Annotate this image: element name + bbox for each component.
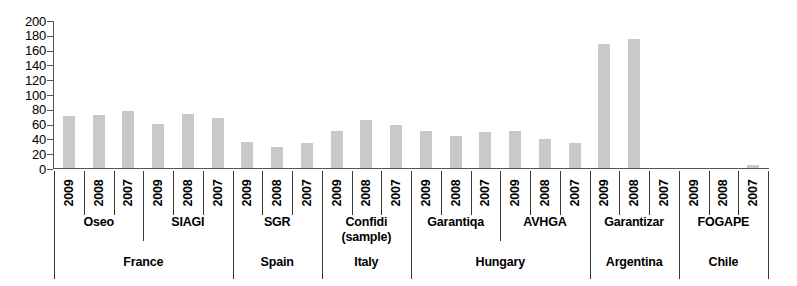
- axis-institution-label: SGR: [233, 215, 322, 230]
- bar: [212, 118, 224, 169]
- axis-separator-country: [679, 171, 680, 279]
- bar: [152, 124, 164, 169]
- axis-year-cell: 2009: [500, 172, 530, 214]
- axis-year-cell: 2009: [322, 172, 352, 214]
- axis-year-label: 2007: [389, 176, 403, 210]
- axis-separator-year: [352, 171, 353, 215]
- axis-separator-country: [233, 171, 234, 279]
- axis-year-label: 2009: [240, 176, 254, 210]
- axis-separator-country: [411, 171, 412, 279]
- axis-separator-year: [203, 171, 204, 215]
- axis-year-label: 2007: [300, 176, 314, 210]
- bar: [331, 131, 343, 169]
- axis-year-label: 2009: [62, 176, 76, 210]
- axis-separator-year: [649, 171, 650, 215]
- axis-year-cell: 2007: [560, 172, 590, 214]
- axis-separator-institution: [500, 171, 501, 241]
- axis-institution-label: Garantiqa: [411, 215, 500, 230]
- axis-year-cell: 2009: [54, 172, 84, 214]
- axis-institution-cell: FOGAPE: [679, 215, 768, 253]
- y-axis-tick-label: 40: [0, 133, 46, 146]
- axis-separator-country: [590, 171, 591, 279]
- axis-year-label: 2008: [538, 176, 552, 210]
- axis-year-cell: 2008: [530, 172, 560, 214]
- axis-year-label: 2007: [746, 176, 760, 210]
- axis-institution-label: AVHGA: [500, 215, 589, 230]
- bar: [628, 39, 640, 169]
- axis-year-cell: 2007: [738, 172, 768, 214]
- bar: [93, 115, 105, 169]
- axis-year-cell: 2008: [352, 172, 382, 214]
- axis-year-label: 2008: [449, 176, 463, 210]
- axis-year-cell: 2008: [84, 172, 114, 214]
- axis-separator-year: [173, 171, 174, 215]
- axis-year-label: 2007: [211, 176, 225, 210]
- axis-separator-country: [768, 171, 769, 279]
- bar: [569, 143, 581, 169]
- bar: [479, 132, 491, 169]
- axis-year-cell: 2008: [619, 172, 649, 214]
- axis-year-cell: 2009: [411, 172, 441, 214]
- bar: [182, 114, 194, 169]
- bar: [509, 131, 521, 169]
- axis-institution-label-line2: (sample): [322, 230, 411, 245]
- axis-separator-country: [54, 171, 55, 279]
- axis-country-label: Spain: [261, 255, 294, 269]
- bar: [63, 116, 75, 169]
- axis-institution-cell: Garantizar: [590, 215, 679, 253]
- bar: [271, 147, 283, 169]
- plot-area: [54, 21, 768, 169]
- axis-year-label: 2008: [270, 176, 284, 210]
- axis-separator-year: [560, 171, 561, 215]
- bar: [420, 131, 432, 169]
- axis-separator-country: [322, 171, 323, 279]
- axis-separator-year: [84, 171, 85, 215]
- axis-separator-year: [471, 171, 472, 215]
- y-axis-tick-label: 160: [0, 44, 46, 57]
- axis-year-label: 2007: [657, 176, 671, 210]
- axis-institution-cell: SGR: [233, 215, 322, 253]
- axis-year-cell: 2007: [203, 172, 233, 214]
- axis-country-cell: Argentina: [590, 255, 679, 277]
- bar: [539, 139, 551, 169]
- axis-year-cell: 2007: [471, 172, 501, 214]
- axis-separator-year: [530, 171, 531, 215]
- bar: [360, 120, 372, 169]
- y-axis-tick-label: 100: [0, 89, 46, 102]
- axis-year-cell: 2009: [590, 172, 620, 214]
- axis-country-label: Chile: [709, 255, 739, 269]
- axis-institution-cell: Confidi(sample): [322, 215, 411, 253]
- axis-separator-institution: [143, 171, 144, 241]
- axis-country-cell: Spain: [233, 255, 322, 277]
- axis-year-label: 2007: [478, 176, 492, 210]
- y-axis-tick-label: 200: [0, 15, 46, 28]
- axis-country-label: Argentina: [606, 255, 663, 269]
- axis-institution-label: SIAGI: [143, 215, 232, 230]
- axis-year-cell: 2009: [143, 172, 173, 214]
- axis-year-label: 2009: [597, 176, 611, 210]
- bar: [390, 125, 402, 169]
- y-axis-tick-label: 180: [0, 29, 46, 42]
- axis-institution-label: Garantizar: [590, 215, 679, 230]
- axis-year-label: 2007: [121, 176, 135, 210]
- axis-year-cell: 2008: [441, 172, 471, 214]
- axis-separator-year: [262, 171, 263, 215]
- axis-year-cell: 2007: [649, 172, 679, 214]
- axis-year-cell: 2008: [262, 172, 292, 214]
- axis-year-cell: 2008: [173, 172, 203, 214]
- axis-separator-year: [709, 171, 710, 215]
- axis-year-cell: 2009: [679, 172, 709, 214]
- axis-year-cell: 2007: [292, 172, 322, 214]
- axis-country-label: Hungary: [476, 255, 525, 269]
- axis-institution-cell: SIAGI: [143, 215, 232, 253]
- bar: [122, 111, 134, 169]
- axis-country-label: France: [123, 255, 163, 269]
- axis-year-label: 2009: [508, 176, 522, 210]
- axis-year-cell: 2008: [709, 172, 739, 214]
- axis-year-label: 2008: [181, 176, 195, 210]
- axis-country-label: Italy: [354, 255, 378, 269]
- axis-year-label: 2009: [419, 176, 433, 210]
- axis-separator-year: [619, 171, 620, 215]
- y-axis-tick-label: 120: [0, 74, 46, 87]
- axis-year-cell: 2007: [381, 172, 411, 214]
